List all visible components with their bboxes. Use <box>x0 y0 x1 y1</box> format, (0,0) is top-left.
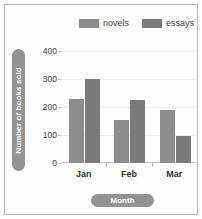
bar-essays-feb <box>130 100 145 163</box>
bar-essays-mar <box>176 136 191 163</box>
x-axis-title: Month <box>111 197 135 205</box>
plot-area: 0100200300400JanFebMar <box>61 51 197 163</box>
legend-swatch-essays <box>142 19 162 28</box>
bar-essays-jan <box>85 79 100 163</box>
bar-novels-mar <box>160 110 175 163</box>
bar-group: Mar <box>152 51 197 163</box>
plot-wrap: 0100200300400JanFebMar <box>29 45 199 180</box>
bar-novels-feb <box>114 120 129 163</box>
x-tick-mark <box>152 163 153 167</box>
y-tick-label: 200 <box>43 102 57 112</box>
bar-novels-jan <box>69 99 84 163</box>
y-tick-label: 300 <box>43 74 57 84</box>
bar-group: Feb <box>106 51 151 163</box>
legend-label-essays: essays <box>166 19 194 28</box>
x-axis-title-pill: Month <box>91 194 154 207</box>
chart-screenshot: novels essays Number of books sold 01002… <box>0 0 202 219</box>
legend-item-essays: essays <box>142 19 194 28</box>
legend-item-novels: novels <box>79 19 129 28</box>
y-tick-label: 400 <box>43 46 57 56</box>
x-tick-mark <box>106 163 107 167</box>
y-tick-label: 100 <box>43 130 57 140</box>
y-tick-label: 0 <box>52 158 57 168</box>
x-tick-label-feb: Feb <box>121 169 137 179</box>
y-tick-mark <box>58 163 61 164</box>
x-tick-label-jan: Jan <box>76 169 92 179</box>
y-axis-title-pill: Number of books sold <box>12 49 25 171</box>
x-tick-label-mar: Mar <box>166 169 182 179</box>
bar-group: Jan <box>61 51 106 163</box>
legend-swatch-novels <box>79 19 99 28</box>
chart-legend: novels essays <box>79 16 199 30</box>
legend-label-novels: novels <box>103 19 129 28</box>
chart-frame: novels essays Number of books sold 01002… <box>4 4 198 215</box>
y-axis-title: Number of books sold <box>14 67 23 153</box>
